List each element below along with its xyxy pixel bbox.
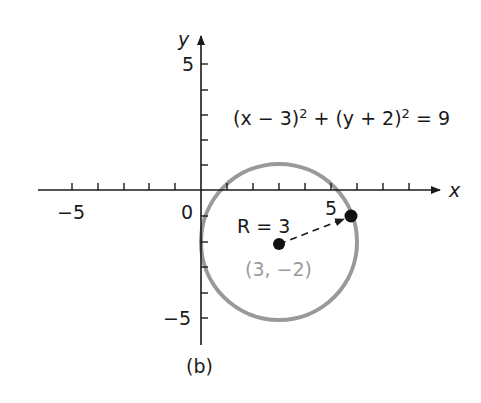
equation-rhs: = 9 [410, 107, 450, 129]
equation-exponent-2: 2 [402, 106, 410, 121]
radius-label: R = 3 [237, 215, 290, 237]
equation-plus: + (y + 2) [307, 107, 401, 129]
y-tick-label-5: 5 [182, 53, 194, 75]
y-tick-label-neg5: −5 [163, 307, 191, 329]
equation-lhs1: (x − 3) [233, 107, 299, 129]
x-axis-label: x [448, 179, 461, 201]
center-label: (3, −2) [245, 258, 312, 280]
center-point [273, 238, 285, 250]
x-tick-label-5: 5 [325, 197, 337, 219]
y-axis-ticks [201, 64, 208, 318]
coordinate-plane: y x 5 −5 −5 5 0 (x − 3)2 + (y + 2)2 = 9 … [0, 0, 481, 403]
figure-caption: (b) [186, 355, 213, 377]
equation-exponent-1: 2 [299, 106, 307, 121]
point-on-circle [345, 210, 358, 223]
x-tick-label-neg5: −5 [57, 201, 85, 223]
circle-graph-figure: y x 5 −5 −5 5 0 (x − 3)2 + (y + 2)2 = 9 … [0, 0, 481, 403]
x-axis-ticks [72, 183, 409, 190]
origin-label: 0 [181, 201, 193, 223]
circle-equation: (x − 3)2 + (y + 2)2 = 9 [233, 106, 450, 129]
y-axis-label: y [177, 28, 190, 50]
